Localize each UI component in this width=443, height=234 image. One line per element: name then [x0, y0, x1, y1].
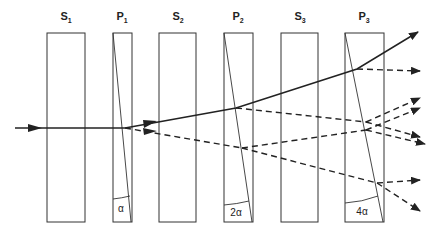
output-ray-3	[366, 108, 420, 130]
dashed-ray-p2-lower-up	[242, 130, 366, 148]
output-ray-6	[377, 180, 420, 183]
angle-label-p3: 4α	[356, 206, 367, 217]
dashed-ray-p2-lower-down	[242, 148, 377, 183]
prism-diagram: S1 P1 S2 P2 S3 P3 α 2α 4α	[0, 0, 443, 234]
angle-label-p1: α	[118, 203, 124, 214]
prism-p3	[345, 33, 384, 222]
label-p1: P1	[116, 10, 127, 24]
label-s2: S2	[172, 10, 183, 24]
plate-s2	[159, 33, 196, 222]
label-p2: P2	[232, 10, 243, 24]
output-ray-7	[377, 183, 420, 211]
label-s3: S3	[294, 10, 305, 24]
solid-ray	[125, 32, 418, 128]
angle-label-p2: 2α	[230, 207, 241, 218]
label-s1: S1	[60, 10, 71, 24]
diagram-canvas	[0, 0, 443, 234]
dashed-ray-p2-upper	[236, 108, 366, 122]
output-ray-2	[366, 98, 420, 122]
prism-p2	[224, 33, 253, 222]
label-p3: P3	[358, 10, 369, 24]
output-ray-4	[366, 122, 420, 137]
output-ray-5	[366, 130, 425, 144]
plate-s3	[281, 33, 318, 222]
output-ray-1	[357, 69, 420, 71]
